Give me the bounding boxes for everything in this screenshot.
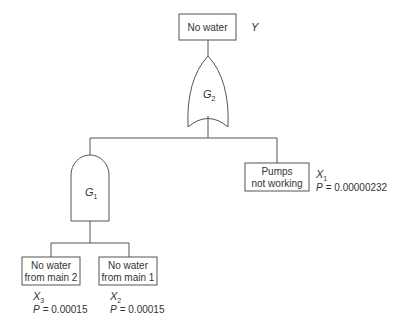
- event-x1-probability: P= 0.00000232: [316, 182, 388, 193]
- basic-event-x3: No water from main 2 X3 P= 0.00015: [22, 257, 88, 315]
- event-x1-line2: not working: [251, 178, 302, 189]
- event-x2-line1: No water: [108, 260, 149, 271]
- event-x3-line1: No water: [31, 260, 72, 271]
- basic-event-x1: Pumps not working X1 P= 0.00000232: [245, 163, 388, 193]
- top-event-label: No water: [187, 22, 228, 33]
- and-gate-g1: G1: [71, 155, 109, 221]
- basic-event-x2: No water from main 1 X2 P= 0.00015: [99, 257, 165, 315]
- event-x2-line2: from main 1: [102, 272, 155, 283]
- event-x1-symbol: X1: [315, 168, 327, 182]
- top-event: No water Y: [179, 14, 259, 40]
- event-x3-symbol: X3: [32, 290, 44, 304]
- event-x3-probability: P= 0.00015: [33, 304, 88, 315]
- event-x3-line2: from main 2: [25, 272, 78, 283]
- fault-tree-diagram: No water Y G2 G1 Pumps not working X1 P=…: [0, 0, 400, 328]
- event-x2-probability: P= 0.00015: [110, 304, 165, 315]
- event-x1-line1: Pumps: [261, 166, 292, 177]
- event-x2-symbol: X2: [109, 290, 121, 304]
- top-event-symbol: Y: [251, 21, 259, 33]
